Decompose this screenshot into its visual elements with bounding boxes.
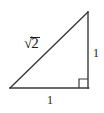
hypotenuse-label: √2: [24, 36, 39, 51]
hypotenuse-line: [10, 12, 88, 88]
horizontal-leg-label: 1: [47, 94, 53, 106]
right-angle-marker: [79, 79, 88, 88]
vertical-leg-label: 1: [93, 47, 99, 59]
radical-expression: √2: [24, 36, 39, 51]
right-triangle-figure: √2 1 1: [0, 0, 104, 113]
radicand-value: 2: [31, 36, 39, 51]
